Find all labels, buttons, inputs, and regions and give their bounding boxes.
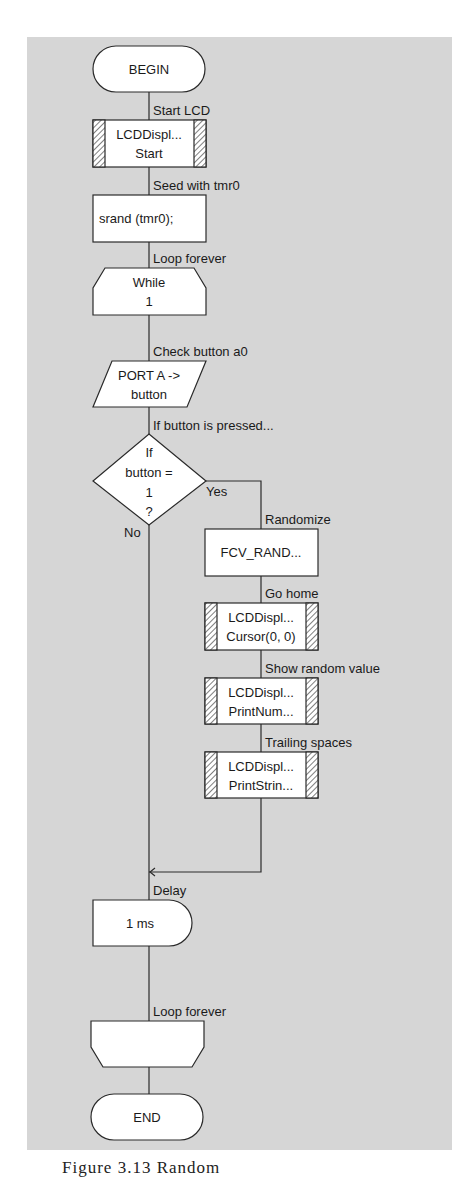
macro-hatch-icon — [306, 752, 318, 798]
end-terminator[interactable]: END — [91, 1094, 203, 1140]
randomize-label: Randomize — [265, 512, 331, 527]
macro-hatch-icon — [205, 752, 217, 798]
start-lcd-macro[interactable]: LCDDispl... Start — [93, 120, 206, 167]
figure-caption: Figure 3.13 Random — [62, 1158, 220, 1178]
svg-text:LCDDispl...: LCDDispl... — [228, 610, 294, 625]
svg-text:button: button — [131, 387, 167, 402]
while-loop-end[interactable] — [91, 1021, 204, 1067]
seed-label: Seed with tmr0 — [153, 178, 240, 193]
go-home-macro[interactable]: LCDDispl... Cursor(0, 0) — [205, 603, 318, 650]
start-lcd-label: Start LCD — [153, 103, 210, 118]
macro-hatch-icon — [93, 120, 105, 167]
svg-text:LCDDispl...: LCDDispl... — [116, 127, 182, 142]
begin-terminator[interactable]: BEGIN — [93, 46, 205, 92]
svg-text:1 ms: 1 ms — [126, 916, 155, 931]
macro-hatch-icon — [306, 603, 318, 650]
decision-label: If button is pressed... — [153, 418, 274, 433]
go-home-label: Go home — [265, 586, 318, 601]
show-value-macro[interactable]: LCDDispl... PrintNum... — [205, 678, 318, 724]
decision-button-pressed[interactable]: If button = 1 ? — [93, 434, 206, 525]
svg-text:PrintNum...: PrintNum... — [228, 704, 293, 719]
svg-text:srand (tmr0);: srand (tmr0); — [99, 211, 173, 226]
delay-block[interactable]: 1 ms — [93, 900, 192, 946]
input-port-a[interactable]: PORT A -> button — [93, 361, 206, 407]
svg-text:If: If — [145, 445, 153, 460]
trailing-spaces-macro[interactable]: LCDDispl... PrintStrin... — [205, 752, 318, 798]
svg-text:1: 1 — [145, 485, 152, 500]
yes-label: Yes — [206, 484, 228, 499]
svg-text:LCDDispl...: LCDDispl... — [228, 759, 294, 774]
svg-text:PORT A ->: PORT A -> — [118, 368, 180, 383]
randomize-calculation[interactable]: FCV_RAND... — [205, 529, 318, 576]
delay-label: Delay — [153, 883, 187, 898]
input-label: Check button a0 — [153, 344, 248, 359]
svg-text:PrintStrin...: PrintStrin... — [229, 778, 293, 793]
no-label: No — [124, 525, 141, 540]
loop-end-label: Loop forever — [153, 1004, 227, 1019]
svg-text:button =: button = — [125, 465, 172, 480]
svg-text:1: 1 — [145, 294, 152, 309]
trailing-label: Trailing spaces — [265, 735, 352, 750]
macro-hatch-icon — [205, 603, 217, 650]
while-loop-start[interactable]: While 1 — [93, 268, 206, 315]
macro-hatch-icon — [194, 120, 206, 167]
svg-text:BEGIN: BEGIN — [129, 62, 169, 77]
svg-text:While: While — [133, 275, 166, 290]
svg-text:LCDDispl...: LCDDispl... — [228, 685, 294, 700]
show-value-label: Show random value — [265, 661, 380, 676]
macro-hatch-icon — [306, 678, 318, 724]
seed-calculation[interactable]: srand (tmr0); — [93, 195, 206, 242]
loop-start-label: Loop forever — [153, 251, 227, 266]
svg-text:FCV_RAND...: FCV_RAND... — [221, 545, 302, 560]
svg-text:?: ? — [145, 504, 152, 519]
svg-text:Start: Start — [135, 146, 163, 161]
svg-text:END: END — [133, 1110, 160, 1125]
macro-hatch-icon — [205, 678, 217, 724]
svg-text:Cursor(0, 0): Cursor(0, 0) — [226, 629, 295, 644]
